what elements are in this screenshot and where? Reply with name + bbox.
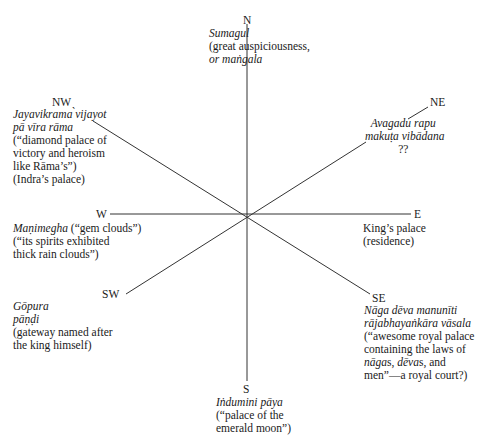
direction-label-w: W xyxy=(96,208,107,221)
northwest-line-2: victory and heroism xyxy=(13,147,107,160)
southeast-line-2: containing the laws of xyxy=(364,343,474,356)
southwest-name-1: Gōpura xyxy=(13,300,49,312)
text-fragment: s, xyxy=(387,356,397,368)
west-name-gloss: (“gem clouds”) xyxy=(68,222,141,234)
southeast-line-1: (“awesome royal palace xyxy=(364,330,474,343)
southwest-caption: Gōpura pāṇḍi (gateway named after the ki… xyxy=(13,300,113,352)
northwest-line-3: like Rāma’s”) xyxy=(13,160,107,173)
east-caption: King’s palace (residence) xyxy=(363,222,426,248)
direction-label-ne: NE xyxy=(430,96,445,109)
north-line-2: or maṅgala xyxy=(209,53,262,65)
nagas-term: nāga xyxy=(364,356,387,368)
south-name: Iṅdumini pāya xyxy=(216,396,283,408)
northwest-caption: Jayavikrama ̀vijayot pā vīra rāma (“diam… xyxy=(13,108,107,186)
north-caption: Sumagul (great auspiciousness, or maṅgal… xyxy=(209,27,310,66)
south-line-1: (“palace of the xyxy=(216,409,291,422)
northeast-southwest-line xyxy=(126,142,366,294)
west-line-1: (“its spirits exhibited xyxy=(13,235,141,248)
northwest-name-1: Jayavikrama ̀vijayot xyxy=(13,108,107,120)
north-name: Sumagul xyxy=(209,27,249,39)
west-line-2: thick rain clouds”) xyxy=(13,248,141,261)
northwest-name-2: pā vīra rāma xyxy=(13,121,73,133)
southeast-name-1: Nāga dēva manunīti xyxy=(364,304,457,316)
northeast-name-2: makuṭa vibādana xyxy=(365,130,445,142)
south-line-2: emerald moon”) xyxy=(216,422,291,435)
southwest-line-1: (gateway named after xyxy=(13,326,113,339)
direction-label-e: E xyxy=(414,208,421,221)
southeast-name-2: rājabhayaṅkāra vāsala xyxy=(364,317,471,329)
south-caption: Iṅdumini pāya (“palace of the emerald mo… xyxy=(216,396,291,435)
northeast-name-1: Avagadu rapu xyxy=(371,117,436,129)
east-line-2: (residence) xyxy=(363,235,426,248)
devas-term: dēva xyxy=(397,356,419,368)
southeast-line-4: men”—a royal court?) xyxy=(364,369,474,382)
north-line-1: (great auspiciousness, xyxy=(209,40,310,53)
northeast-caption: Avagadu rapu makuṭa vibādana ?? xyxy=(362,117,445,156)
southwest-name-2: pāṇḍi xyxy=(13,313,39,325)
west-name: Maṇimegha xyxy=(13,222,68,234)
west-caption: Maṇimegha (“gem clouds”) (“its spirits e… xyxy=(13,222,141,261)
southeast-caption: Nāga dēva manunīti rājabhayaṅkāra vāsala… xyxy=(364,304,474,382)
northeast-line-1: ?? xyxy=(362,143,445,156)
northwest-southeast-line xyxy=(93,121,370,294)
northwest-line-1: (“diamond palace of xyxy=(13,134,107,147)
text-fragment: s, and xyxy=(419,356,446,368)
east-line-1: King’s palace xyxy=(363,222,426,235)
direction-label-s: S xyxy=(243,383,249,396)
southeast-line-3: nāgas, dēvas, and xyxy=(364,356,474,369)
direction-label-n: N xyxy=(243,14,251,27)
northwest-line-4: (Indra’s palace) xyxy=(13,173,107,186)
southwest-line-2: the king himself) xyxy=(13,339,113,352)
